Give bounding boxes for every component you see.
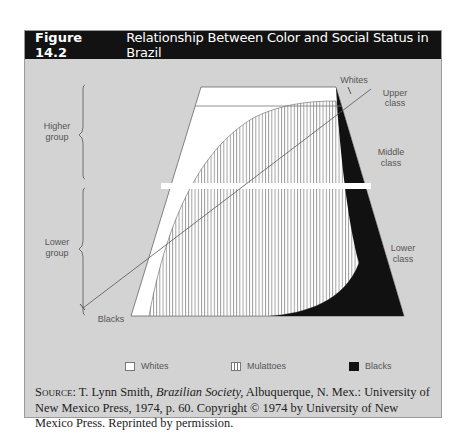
figure-frame: Figure 14.2 Relationship Between Color a… bbox=[24, 30, 442, 418]
source-citation: Source: T. Lynn Smith, Brazilian Society… bbox=[35, 385, 433, 432]
blacks-swatch-icon bbox=[349, 362, 359, 371]
label-lower-group: Lowergroup bbox=[45, 237, 70, 258]
group-divider-bar bbox=[161, 183, 371, 189]
label-lower-class: Lowerclass bbox=[391, 243, 416, 264]
source-book-title: Brazilian Society, bbox=[156, 385, 243, 399]
mulattoes-swatch-icon bbox=[231, 362, 241, 371]
label-middle-class: Middleclass bbox=[378, 147, 405, 168]
legend-item-mulattoes: Mulattoes bbox=[231, 361, 286, 371]
label-arrow-blacks: Blacks bbox=[98, 314, 125, 324]
color-status-diagram: Highergroup Lowergroup Upperclass Middle… bbox=[25, 31, 443, 361]
arrow-whites-icon bbox=[348, 87, 351, 94]
label-higher-group: Highergroup bbox=[44, 121, 71, 142]
legend-label: Mulattoes bbox=[247, 361, 286, 371]
legend-label: Whites bbox=[141, 361, 169, 371]
whites-swatch-icon bbox=[125, 362, 135, 371]
legend-label: Blacks bbox=[365, 361, 392, 371]
legend-item-blacks: Blacks bbox=[349, 361, 392, 371]
source-text: T. Lynn Smith, bbox=[76, 385, 156, 399]
lower-group-brace bbox=[79, 188, 85, 315]
mulattoes-region bbox=[149, 101, 359, 316]
label-upper-class: Upperclass bbox=[383, 88, 408, 108]
label-arrow-whites: Whites bbox=[340, 75, 368, 85]
source-prefix: Source: bbox=[35, 385, 76, 399]
higher-group-brace bbox=[79, 85, 85, 179]
legend-item-whites: Whites bbox=[125, 361, 169, 371]
legend: Whites Mulattoes Blacks bbox=[25, 361, 441, 377]
